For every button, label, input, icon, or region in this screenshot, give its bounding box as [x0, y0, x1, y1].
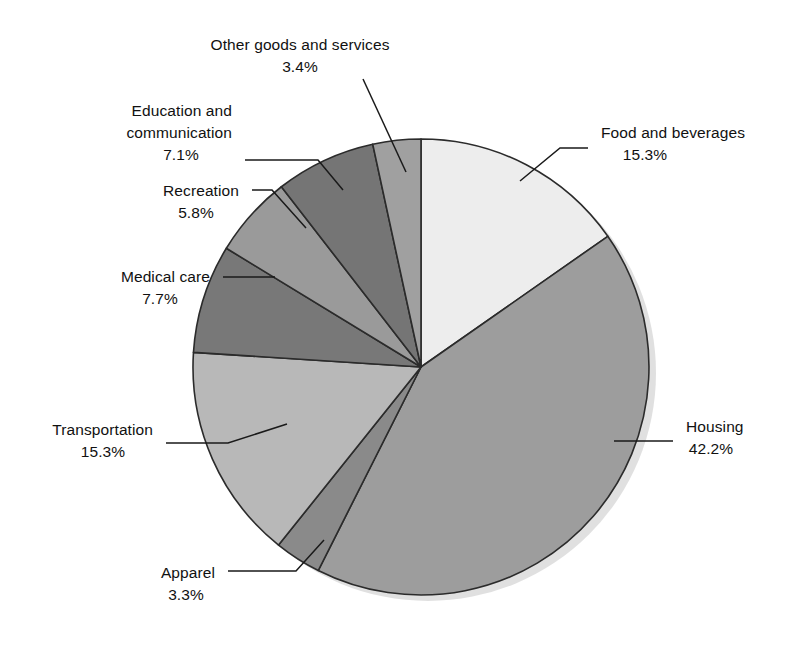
- slice-value-other-goods-and-services: 3.4%: [282, 58, 318, 75]
- slice-value-housing: 42.2%: [689, 440, 734, 457]
- slice-value-food-and-beverages: 15.3%: [623, 146, 668, 163]
- slice-label-transportation: Transportation: [52, 421, 153, 438]
- slice-label-other-goods-and-services: Other goods and services: [210, 36, 389, 53]
- slice-label-recreation: Recreation: [163, 182, 239, 199]
- slice-value-education-and-communication: 7.1%: [163, 146, 199, 163]
- slice-label-education-and-communication: Education and: [132, 102, 232, 119]
- slice-label-education-and-communication-line2: communication: [126, 124, 232, 141]
- slice-label-housing: Housing: [686, 418, 744, 435]
- slice-label-apparel: Apparel: [161, 564, 215, 581]
- slice-value-medical-care: 7.7%: [142, 290, 178, 307]
- slice-label-medical-care: Medical care: [121, 268, 210, 285]
- pie-chart-figure: Food and beverages15.3%Housing42.2%Appar…: [0, 0, 810, 645]
- pie-slices-group: [193, 139, 649, 595]
- slice-label-food-and-beverages: Food and beverages: [601, 124, 745, 141]
- slice-value-apparel: 3.3%: [168, 586, 204, 603]
- pie-chart-canvas: Food and beverages15.3%Housing42.2%Appar…: [0, 0, 810, 645]
- slice-value-recreation: 5.8%: [178, 204, 214, 221]
- slice-value-transportation: 15.3%: [81, 443, 126, 460]
